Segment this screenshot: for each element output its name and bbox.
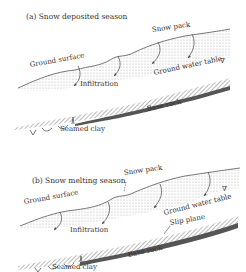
label-seamed-clay: Seamed clay — [52, 264, 97, 271]
label-seamed-clay: Seamed clay — [60, 126, 105, 133]
label-infiltration: Infiltration — [80, 81, 118, 88]
panel-title: (b) Snow melting season — [32, 176, 126, 185]
water-table-symbol-icon: ∇ — [220, 58, 225, 65]
slip-plane-pointer — [164, 226, 170, 234]
panel-title: (a) Snow deposited season — [26, 12, 127, 21]
water-table-symbol-icon: ∇ — [222, 186, 227, 193]
label-infiltration: Infiltration — [70, 227, 108, 234]
panel-snow-melting-season: (b) Snow melting season Snow pack Ground… — [0, 136, 246, 272]
panel-snow-deposited-season: (a) Snow deposited season Snow pack Grou… — [0, 0, 246, 136]
